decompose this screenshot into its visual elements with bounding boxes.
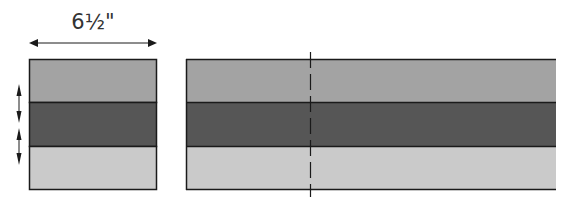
pressing-arrow-icon (17, 84, 22, 123)
left-band-top (30, 60, 157, 103)
left-band-middle (30, 103, 157, 147)
pressing-arrow-icon (17, 128, 22, 165)
diagram-graphics (0, 0, 570, 213)
right-band-middle (186, 102, 556, 146)
right-band-top (186, 59, 556, 102)
right-band-bottom (186, 146, 556, 189)
dimension-arrow-icon (29, 39, 157, 47)
left-block (30, 60, 157, 190)
left-band-bottom (30, 147, 157, 190)
right-strip-set (186, 59, 556, 190)
